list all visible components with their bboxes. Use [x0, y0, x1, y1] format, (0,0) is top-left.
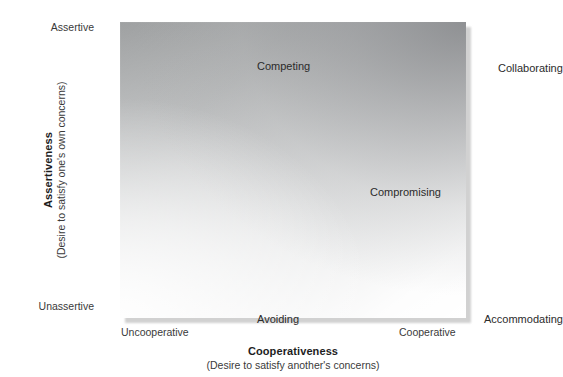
x-axis-title-main: Cooperativeness: [120, 344, 466, 358]
y-axis-title-main: Assertiveness: [42, 132, 54, 208]
x-axis-title: Cooperativeness (Desire to satisfy anoth…: [120, 344, 466, 372]
x-axis-tick-cooperative: Cooperative: [399, 326, 456, 338]
mode-label-collaborating: Collaborating: [498, 62, 563, 75]
mode-label-avoiding: Avoiding: [257, 313, 299, 326]
plot-area: Competing Collaborating Compromising Avo…: [120, 22, 466, 318]
x-axis-tick-uncooperative: Uncooperative: [121, 326, 189, 338]
x-axis-title-subtitle: (Desire to satisfy another's concerns): [120, 358, 466, 372]
y-axis-title-subtitle: (Desire to satisfy one's own concerns): [55, 81, 67, 258]
mode-label-compromising: Compromising: [370, 186, 441, 199]
mode-label-competing: Competing: [257, 60, 310, 73]
mode-label-accommodating: Accommodating: [484, 313, 563, 326]
y-axis-title: Assertiveness (Desire to satisfy one's o…: [34, 22, 74, 318]
